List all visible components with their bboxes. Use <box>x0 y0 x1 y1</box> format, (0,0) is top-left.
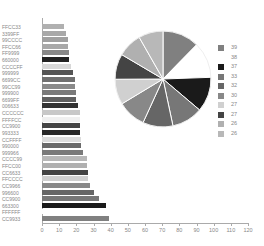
bar-row: CCFFFF <box>0 137 264 143</box>
bar <box>42 84 75 89</box>
bar <box>42 137 81 142</box>
bar <box>42 44 68 49</box>
bar-row: 996600 <box>0 190 264 196</box>
x-tick-label: 30 <box>90 227 96 233</box>
legend-swatch <box>218 83 224 89</box>
legend-swatch <box>218 112 224 118</box>
legend-swatch <box>218 121 224 127</box>
x-tick-label: 60 <box>142 227 148 233</box>
bar-row: 999966 <box>0 150 264 156</box>
bar-row: 663300 <box>0 203 264 209</box>
x-tick-label: 110 <box>226 227 235 233</box>
x-tick-label: 90 <box>193 227 199 233</box>
bar-row: CC9933 <box>0 216 264 222</box>
bar <box>42 209 107 214</box>
bar <box>42 176 88 181</box>
bar-label: 6699FF <box>2 97 40 103</box>
legend-label: 33 <box>231 73 237 79</box>
x-tick-label: 120 <box>243 227 252 233</box>
bar-label: CCCCFF <box>2 64 40 70</box>
bar-label: 6699CC <box>2 77 40 83</box>
bar-label: 990000 <box>2 143 40 149</box>
bar-label: 999966 <box>2 150 40 156</box>
bar <box>42 97 76 102</box>
bar <box>42 183 90 188</box>
x-tick-label: 100 <box>209 227 218 233</box>
legend-label: 37 <box>231 63 237 69</box>
bar-row: FFCCCC <box>0 176 264 182</box>
x-tick <box>42 223 43 226</box>
bar-row: FFFFFF <box>0 209 264 215</box>
legend-label: 38 <box>231 54 237 60</box>
x-tick <box>197 223 198 226</box>
x-tick <box>214 223 215 226</box>
bar-row: CC9966 <box>0 183 264 189</box>
bar-label: 99CCCC <box>2 37 40 43</box>
bar <box>42 103 78 108</box>
legend-label: 39 <box>231 44 237 50</box>
x-tick <box>76 223 77 226</box>
legend-swatch <box>218 131 224 137</box>
x-tick-label: 20 <box>73 227 79 233</box>
bar <box>42 123 80 128</box>
x-tick <box>162 223 163 226</box>
bar-label: 996600 <box>2 190 40 196</box>
bar <box>42 143 81 148</box>
bar <box>42 24 64 29</box>
legend-label: 32 <box>231 82 237 88</box>
bar <box>42 90 76 95</box>
bar-row: 993333 <box>0 130 264 136</box>
bar <box>42 190 94 195</box>
bar <box>42 70 73 75</box>
legend-label: 26 <box>231 120 237 126</box>
bar <box>42 130 80 135</box>
legend-swatch <box>218 74 224 80</box>
x-tick-label: 10 <box>56 227 62 233</box>
bar-label: FFFFCC <box>2 117 40 123</box>
bar-label: CC6633 <box>2 170 40 176</box>
bar-row: 990000 <box>0 143 264 149</box>
bar-label: 999999 <box>2 70 40 76</box>
bar <box>42 150 83 155</box>
bar-row: CC9900 <box>0 196 264 202</box>
bar <box>42 50 69 55</box>
x-tick <box>248 223 249 226</box>
bar-label: FFCC00 <box>2 163 40 169</box>
x-tick <box>128 223 129 226</box>
x-tick-label: 70 <box>159 227 165 233</box>
bar <box>42 203 106 208</box>
legend-label: 27 <box>231 101 237 107</box>
bar-label: 999900 <box>2 90 40 96</box>
bar-label: CCFFFF <box>2 137 40 143</box>
bar <box>42 170 88 175</box>
x-tick <box>231 223 232 226</box>
bar <box>42 37 68 42</box>
bar-label: 663300 <box>2 203 40 209</box>
bar-label: CC9900 <box>2 123 40 129</box>
x-tick <box>179 223 180 226</box>
bar-label: 993333 <box>2 130 40 136</box>
bar <box>42 64 71 69</box>
bar-label: 006633 <box>2 103 40 109</box>
bar <box>42 163 87 168</box>
bar-label: FFFFFF <box>2 209 40 215</box>
bar-label: 99CC99 <box>2 84 40 90</box>
x-tick <box>94 223 95 226</box>
legend-swatch <box>218 55 224 61</box>
pie-chart <box>113 29 213 129</box>
bar <box>42 57 69 62</box>
x-tick <box>145 223 146 226</box>
x-tick <box>59 223 60 226</box>
legend-label: 30 <box>231 92 237 98</box>
bar <box>42 110 80 115</box>
x-tick-label: 50 <box>125 227 131 233</box>
bar-label: FF9999 <box>2 50 40 56</box>
bar-label: CCCC99 <box>2 156 40 162</box>
bar-label: FFCC66 <box>2 44 40 50</box>
x-tick-label: 80 <box>176 227 182 233</box>
bar <box>42 31 66 36</box>
bar-label: CC9933 <box>2 216 40 222</box>
legend-swatch <box>218 93 224 99</box>
bar <box>42 77 75 82</box>
bar <box>42 117 80 122</box>
